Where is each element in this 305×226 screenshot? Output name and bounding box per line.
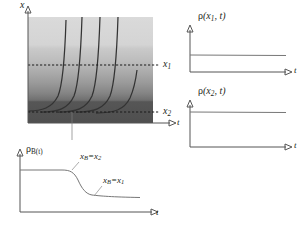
rho-x2-x-axis-label: t <box>294 141 297 150</box>
rho-x1-title: ρ(x1, t) <box>198 11 225 23</box>
main-x-axis-label: t <box>177 118 180 127</box>
rho-x1-curve <box>190 55 286 56</box>
rho-x1-x-axis-arrow <box>285 69 292 75</box>
rho-x2-x-axis-arrow <box>285 144 292 150</box>
rho-x2-title: ρ(x2, t) <box>198 86 225 98</box>
annotation-leader-1 <box>72 162 79 170</box>
figure-root: x t x1 x2 ρ(x1, t) t ρ(x2, t) t ρB(t) t … <box>0 0 305 226</box>
annotation-leader-2 <box>94 186 102 196</box>
annotation-xB-equals-x2: xB=x2 <box>80 152 101 162</box>
rho-x1-x-axis-label: t <box>294 66 297 75</box>
annotation-xB-equals-x1: xB=x1 <box>103 176 124 186</box>
rho-B-title: ρB(t) <box>26 144 43 156</box>
rho-B-x-axis-label: t <box>156 208 159 217</box>
rho-x2-curve <box>190 112 286 113</box>
main-xt-panel <box>0 0 180 140</box>
main-y-axis-label: x <box>20 0 24 10</box>
level-label-x2: x2 <box>163 106 171 118</box>
level-label-x1: x1 <box>163 59 171 71</box>
main-x-axis-arrow <box>169 120 176 126</box>
